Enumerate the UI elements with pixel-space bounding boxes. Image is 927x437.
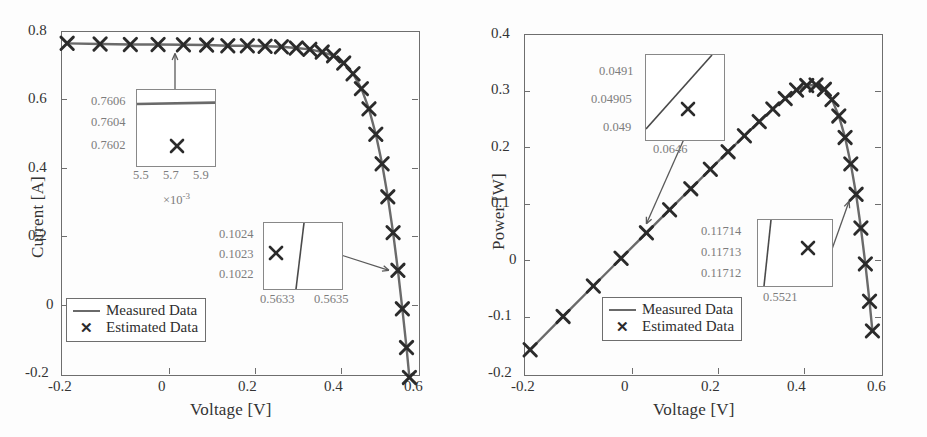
legend-row-estimated: ✕ Estimated Data — [73, 319, 198, 336]
legend-pv: Measured Data ✕ Estimated Data — [602, 297, 742, 341]
inset-low-pv-content — [646, 55, 724, 140]
inset-knee-pv-ytick: 0.11713 — [701, 245, 741, 260]
inset-panel-knee-pv — [757, 219, 833, 287]
inset-isc-ytick: 0.7606 — [91, 94, 125, 109]
legend-row-estimated: ✕ Estimated Data — [609, 318, 734, 335]
inset-low-pv-ytick: 0.0491 — [599, 64, 633, 79]
inset-knee-iv-ytick: 0.1024 — [219, 227, 253, 242]
legend-label-estimated: Estimated Data — [106, 319, 198, 336]
legend-label-measured: Measured Data — [642, 301, 733, 318]
inset-knee-pv-ytick: 0.11712 — [701, 266, 741, 281]
legend-label-measured: Measured Data — [106, 302, 197, 319]
chart-panel-pv: Power [W] Voltage [V] 0.4 0.3 0.2 0.1 0 … — [463, 0, 927, 437]
legend-row-measured: Measured Data — [73, 302, 198, 319]
inset-isc-ytick: 0.7604 — [91, 115, 125, 130]
inset-isc-xtick: 5.5 — [133, 168, 149, 183]
inset-isc-content — [137, 90, 215, 166]
legend-iv: Measured Data ✕ Estimated Data — [66, 298, 206, 342]
inset-knee-pv-content — [758, 220, 832, 286]
inset-panel-isc — [136, 89, 216, 167]
inset-knee-iv-xtick: 0.5633 — [260, 292, 294, 307]
inset-isc-exponent-sup: -3 — [183, 191, 191, 201]
inset-isc-xtick: 5.9 — [193, 168, 209, 183]
inset-knee-iv-ytick: 0.1023 — [219, 247, 253, 262]
inset-knee-pv-xtick: 0.5521 — [763, 290, 797, 305]
inset-isc-exponent: ×10-3 — [163, 191, 190, 208]
inset-knee-iv-content — [264, 223, 342, 289]
legend-row-measured: Measured Data — [609, 301, 734, 318]
inset-low-pv-xtick: 0.0646 — [653, 142, 687, 157]
inset-panel-low-pv — [645, 54, 725, 141]
legend-label-estimated: Estimated Data — [642, 318, 734, 335]
legend-line-icon — [73, 310, 100, 312]
legend-x-marker-icon: ✕ — [609, 318, 636, 335]
inset-panel-knee-iv — [263, 222, 343, 290]
chart-panel-iv: Current [A] Voltage [V] 0.8 0.6 0.4 0.2 … — [0, 0, 464, 437]
inset-knee-pv-ytick: 0.11714 — [701, 224, 741, 239]
legend-line-icon — [609, 309, 636, 311]
inset-knee-iv-ytick: 0.1022 — [219, 267, 253, 282]
inset-isc-ytick: 0.7602 — [91, 138, 125, 153]
inset-knee-iv-xtick: 0.5635 — [314, 292, 348, 307]
inset-low-pv-ytick: 0.04905 — [591, 92, 632, 107]
data-layer-iv — [0, 0, 464, 437]
inset-isc-xtick: 5.7 — [163, 168, 179, 183]
figure-container: Current [A] Voltage [V] 0.8 0.6 0.4 0.2 … — [0, 0, 927, 437]
inset-low-pv-ytick: 0.049 — [603, 120, 631, 135]
inset-isc-exponent-base: ×10 — [163, 193, 183, 207]
legend-x-marker-icon: ✕ — [73, 319, 100, 336]
